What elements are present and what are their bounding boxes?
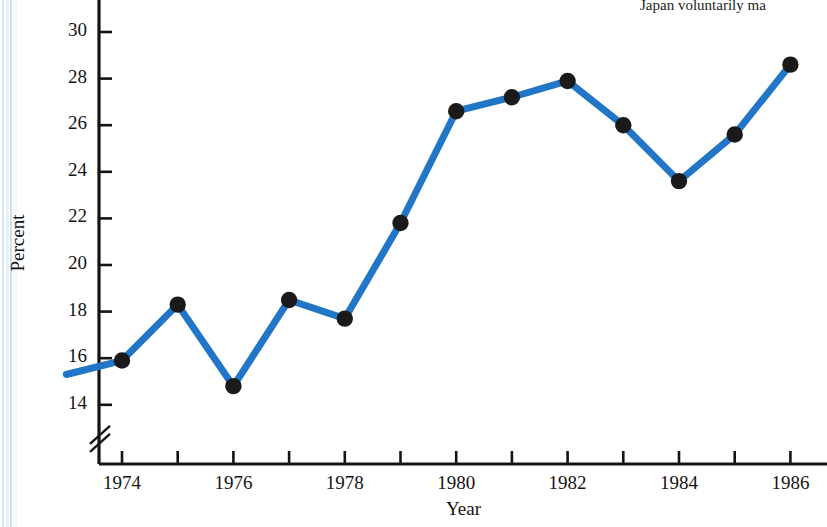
- line-chart-plot: [0, 0, 827, 527]
- data-point-markers: [114, 56, 799, 394]
- y-tick-label: 14: [31, 392, 87, 414]
- data-point-marker: [114, 352, 130, 368]
- x-tick-label: 1978: [310, 472, 380, 494]
- data-point-marker: [281, 292, 297, 308]
- data-point-marker: [782, 56, 798, 72]
- x-tick-label: 1982: [533, 472, 603, 494]
- data-point-marker: [559, 73, 575, 89]
- data-point-marker: [671, 173, 687, 189]
- x-axis-ticks: [122, 451, 790, 464]
- data-point-marker: [170, 296, 186, 312]
- data-point-marker: [337, 310, 353, 326]
- axis-spines: [99, 0, 827, 464]
- y-tick-label: 28: [31, 66, 87, 88]
- x-axis-title: Year: [0, 498, 827, 520]
- x-tick-label: 1986: [755, 472, 825, 494]
- data-point-marker: [615, 117, 631, 133]
- x-tick-label: 1984: [644, 472, 714, 494]
- y-axis-ticks: [99, 32, 112, 405]
- y-tick-label: 26: [31, 112, 87, 134]
- y-tick-label: 24: [31, 159, 87, 181]
- x-tick-label: 1974: [87, 472, 157, 494]
- data-point-marker: [448, 103, 464, 119]
- data-point-marker: [225, 378, 241, 394]
- y-tick-label: 22: [31, 205, 87, 227]
- data-line-percent: [66, 65, 790, 387]
- data-point-marker: [727, 126, 743, 142]
- data-point-marker: [504, 89, 520, 105]
- y-tick-label: 16: [31, 345, 87, 367]
- x-tick-label: 1976: [198, 472, 268, 494]
- y-axis-title: Percent: [7, 163, 29, 323]
- x-tick-label: 1980: [421, 472, 491, 494]
- figure-canvas: Japan voluntarily ma 1416182022242628301…: [0, 0, 827, 527]
- data-point-marker: [392, 215, 408, 231]
- y-tick-label: 30: [31, 19, 87, 41]
- y-tick-label: 20: [31, 252, 87, 274]
- y-tick-label: 18: [31, 299, 87, 321]
